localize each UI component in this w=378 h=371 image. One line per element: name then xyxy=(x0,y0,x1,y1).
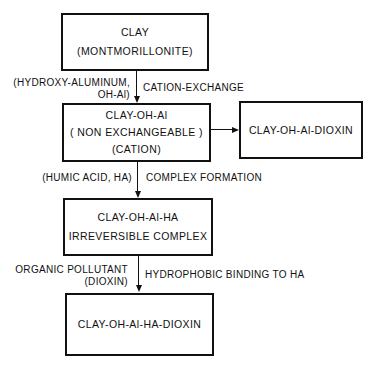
arrow-clay-oh-al-to-dioxin xyxy=(211,129,232,130)
edge3-right-label: COMPLEX FORMATION xyxy=(146,172,262,183)
arrowhead-down-icon xyxy=(135,191,141,198)
node-clay-oh-al-dioxin: CLAY-OH-Al-DIOXIN xyxy=(239,101,363,159)
node-clay: CLAY (MONTMORILLONITE) xyxy=(61,13,209,71)
edge1-left-label-line2: OH-Al) xyxy=(98,89,130,100)
node-clay-title: CLAY xyxy=(121,23,149,42)
node-clay-oh-al-ha-dioxin: CLAY-OH-Al-HA-DIOXIN xyxy=(65,293,214,356)
node-clay-subtitle: (MONTMORILLONITE) xyxy=(77,42,193,61)
edge4-left-label-line2: (DIOXIN) xyxy=(84,276,128,287)
node-clay-oh-al-line3: (CATION) xyxy=(112,141,161,158)
edge1-left-label-line1: (HYDROXY-ALUMINUM, xyxy=(13,77,130,88)
node-clay-oh-al-ha: CLAY-OH-Al-HA IRREVERSIBLE COMPLEX xyxy=(63,198,213,256)
node-clay-oh-al-ha-subtitle: IRREVERSIBLE COMPLEX xyxy=(69,227,208,246)
node-clay-oh-al-ha-title: CLAY-OH-Al-HA xyxy=(97,208,178,227)
node-clay-oh-al-dioxin-title: CLAY-OH-Al-DIOXIN xyxy=(249,121,353,140)
edge4-right-label: HYDROPHOBIC BINDING TO HA xyxy=(145,269,304,280)
arrow-clay-oh-al-to-clay-oh-al-ha xyxy=(137,162,138,192)
edge3-left-label: (HUMIC ACID, HA) xyxy=(42,172,132,183)
node-clay-oh-al-line2: ( NON EXCHANGEABLE ) xyxy=(70,124,203,141)
arrowhead-down-icon xyxy=(136,285,142,292)
arrow-clay-oh-al-ha-to-dioxin xyxy=(138,256,139,286)
edge4-left-label-line1: ORGANIC POLLUTANT xyxy=(15,264,128,275)
node-clay-oh-al: CLAY-OH-Al ( NON EXCHANGEABLE ) (CATION) xyxy=(62,103,211,162)
arrowhead-down-icon xyxy=(134,96,140,103)
arrowhead-right-icon xyxy=(232,127,239,133)
arrow-clay-to-clay-oh-al xyxy=(136,71,137,97)
node-clay-oh-al-ha-dioxin-title: CLAY-OH-Al-HA-DIOXIN xyxy=(78,315,202,334)
edge1-right-label: CATION-EXCHANGE xyxy=(143,82,244,93)
node-clay-oh-al-title: CLAY-OH-Al xyxy=(106,107,168,124)
